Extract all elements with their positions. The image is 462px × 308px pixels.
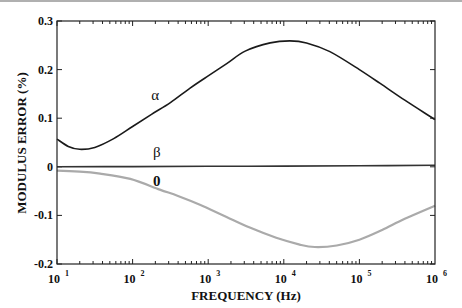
- x-tick-labels: 101102103104105106: [48, 269, 447, 286]
- plot-frame: [57, 21, 435, 264]
- curve-labels: αβ0: [151, 87, 160, 189]
- x-axis-label: FREQUENCY (Hz): [191, 288, 301, 303]
- x-tick-label: 10: [124, 272, 136, 286]
- x-tick-exponent: 4: [292, 269, 296, 278]
- x-tick-label: 10: [199, 272, 211, 286]
- x-tick-label: 10: [350, 272, 362, 286]
- curve-label-alpha: α: [151, 87, 159, 103]
- x-tick-exponent: 3: [216, 269, 220, 278]
- x-tick-exponent: 6: [443, 269, 447, 278]
- y-tick-label: 0: [47, 160, 53, 174]
- y-tick-label: 0.1: [38, 111, 53, 125]
- curve-label-beta: β: [153, 144, 161, 160]
- y-tick-labels: 0.30.20.10-0.1-0.2: [34, 14, 53, 271]
- x-tick-label: 10: [48, 272, 60, 286]
- curve-alpha: [57, 41, 435, 149]
- y-tick-label: -0.1: [34, 208, 53, 222]
- curve-zero: [57, 171, 435, 247]
- x-tick-label: 10: [426, 272, 438, 286]
- y-tick-label: 0.2: [38, 63, 53, 77]
- x-tick-exponent: 1: [65, 269, 69, 278]
- curve-label-zero: 0: [153, 173, 161, 189]
- y-axis-label: MODULUS ERROR (%): [14, 72, 29, 214]
- x-tick-exponent: 5: [367, 269, 371, 278]
- curves: [57, 41, 435, 247]
- y-tick-label: 0.3: [38, 14, 53, 28]
- axis-ticks: [57, 21, 435, 264]
- x-tick-exponent: 2: [141, 269, 145, 278]
- x-tick-label: 10: [275, 272, 287, 286]
- y-tick-label: -0.2: [34, 257, 53, 271]
- modulus-error-chart: 0.30.20.10-0.1-0.2 101102103104105106 αβ…: [0, 0, 462, 308]
- curve-beta: [57, 165, 435, 167]
